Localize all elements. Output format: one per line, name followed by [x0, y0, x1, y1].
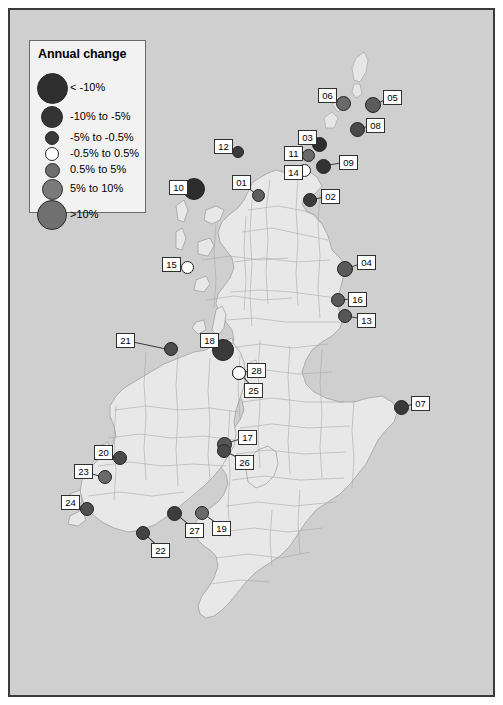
- marker-label-25[interactable]: 25: [244, 383, 263, 398]
- data-marker-28[interactable]: [232, 366, 246, 380]
- marker-label-17[interactable]: 17: [238, 430, 257, 445]
- marker-label-13[interactable]: 13: [357, 313, 376, 328]
- marker-label-22[interactable]: 22: [151, 543, 170, 558]
- legend-symbol-5: [42, 179, 63, 200]
- marker-label-06[interactable]: 06: [318, 88, 337, 103]
- marker-label-18[interactable]: 18: [200, 333, 219, 348]
- data-marker-09[interactable]: [316, 159, 331, 174]
- legend-symbol-1: [41, 106, 63, 128]
- legend-panel: Annual change < -10%-10% to -5%-5% to -0…: [29, 40, 146, 213]
- data-marker-22[interactable]: [136, 526, 150, 540]
- data-marker-23[interactable]: [98, 470, 112, 484]
- legend-symbol-4: [45, 163, 60, 178]
- marker-label-27[interactable]: 27: [185, 523, 204, 538]
- data-marker-27[interactable]: [167, 506, 182, 521]
- marker-label-03[interactable]: 03: [298, 130, 317, 145]
- marker-label-24[interactable]: 24: [61, 495, 80, 510]
- data-marker-21[interactable]: [164, 342, 178, 356]
- marker-label-12[interactable]: 12: [214, 139, 233, 154]
- legend-label-5: 5% to 10%: [70, 182, 123, 194]
- data-marker-26[interactable]: [217, 444, 231, 458]
- legend-symbol-2: [45, 131, 59, 145]
- data-marker-19[interactable]: [195, 506, 209, 520]
- marker-label-20[interactable]: 20: [94, 445, 113, 460]
- legend-title: Annual change: [38, 47, 126, 61]
- data-marker-16[interactable]: [331, 293, 345, 307]
- data-marker-12[interactable]: [232, 146, 244, 158]
- marker-label-01[interactable]: 01: [232, 175, 251, 190]
- map-figure-page: .land{fill:#e8e8e8;stroke:#9a9a9a;stroke…: [0, 0, 503, 705]
- legend-symbol-0: [37, 73, 68, 104]
- data-marker-01[interactable]: [252, 189, 265, 202]
- marker-label-15[interactable]: 15: [162, 257, 181, 272]
- marker-label-19[interactable]: 19: [212, 521, 231, 536]
- marker-label-04[interactable]: 04: [357, 255, 376, 270]
- data-marker-24[interactable]: [80, 502, 94, 516]
- marker-label-28[interactable]: 28: [247, 363, 266, 378]
- data-marker-05[interactable]: [365, 97, 381, 113]
- legend-symbol-3: [45, 147, 59, 161]
- data-marker-02[interactable]: [303, 193, 317, 207]
- legend-label-1: -10% to -5%: [70, 110, 131, 122]
- marker-label-07[interactable]: 07: [411, 396, 430, 411]
- data-marker-11[interactable]: [302, 149, 315, 162]
- legend-label-2: -5% to -0.5%: [70, 131, 134, 143]
- map-frame: .land{fill:#e8e8e8;stroke:#9a9a9a;stroke…: [8, 8, 495, 697]
- data-marker-04[interactable]: [337, 261, 353, 277]
- data-marker-08[interactable]: [350, 122, 365, 137]
- marker-label-14[interactable]: 14: [284, 165, 303, 180]
- legend-label-0: < -10%: [70, 81, 105, 93]
- marker-label-16[interactable]: 16: [348, 292, 367, 307]
- data-marker-20[interactable]: [113, 451, 127, 465]
- legend-symbol-6: [37, 200, 67, 230]
- marker-label-10[interactable]: 10: [169, 180, 188, 195]
- data-marker-15[interactable]: [181, 261, 194, 274]
- marker-label-08[interactable]: 08: [366, 118, 385, 133]
- marker-label-26[interactable]: 26: [235, 455, 254, 470]
- legend-label-4: 0.5% to 5%: [70, 163, 126, 175]
- data-marker-07[interactable]: [394, 400, 409, 415]
- marker-label-23[interactable]: 23: [74, 464, 93, 479]
- marker-label-09[interactable]: 09: [339, 155, 358, 170]
- data-marker-13[interactable]: [338, 309, 352, 323]
- marker-label-11[interactable]: 11: [284, 146, 303, 161]
- data-marker-06[interactable]: [336, 96, 351, 111]
- marker-label-02[interactable]: 02: [321, 189, 340, 204]
- marker-label-05[interactable]: 05: [383, 90, 402, 105]
- marker-label-21[interactable]: 21: [116, 333, 135, 348]
- legend-label-3: -0.5% to 0.5%: [70, 147, 139, 159]
- legend-label-6: >10%: [70, 208, 98, 220]
